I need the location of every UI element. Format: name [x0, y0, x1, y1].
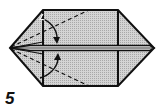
step-number: 5	[5, 90, 14, 107]
origami-diagram	[0, 0, 165, 111]
